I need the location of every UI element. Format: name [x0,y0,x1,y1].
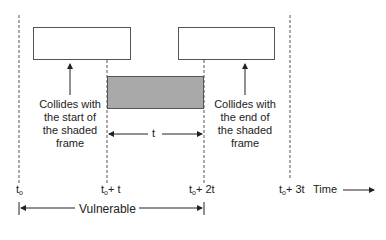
tick-t0-plus-2t: to+ 2t [189,183,215,196]
caption-collides-start: Collides with the start of the shaded fr… [25,98,115,150]
tick-t0: to [16,183,23,196]
span-label: t [152,127,155,139]
tick-t0-plus-3t: to+ 3t [279,183,305,196]
earlier-frame [33,27,131,60]
time-label: Time [313,183,337,195]
vulnerable-label: Vulnerable [79,202,136,216]
tick-t0-plus-t: to+ t [101,183,121,196]
later-frame [178,27,275,60]
caption-collides-end: Collides with the end of the shaded fram… [200,98,290,150]
shaded-frame [107,76,204,109]
